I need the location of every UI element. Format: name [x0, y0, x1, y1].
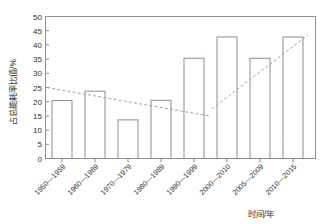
y-tick-label: 25	[33, 84, 42, 93]
y-axis-title: 占总能耗率比值/%	[8, 59, 18, 125]
x-axis-tick-labels: 1950—1959 1960—1969 1970—1979 1980—1989 …	[33, 162, 299, 197]
bar-1980-1989[interactable]	[151, 100, 171, 158]
x-axis-title: 时间/年	[248, 209, 274, 219]
x-tick-label: 1960—1969	[66, 162, 101, 197]
y-tick-label: 35	[33, 55, 42, 64]
y-tick-label: 45	[33, 27, 42, 36]
x-tick-label: 1950—1959	[33, 162, 68, 197]
y-tick-label: 30	[33, 69, 42, 78]
y-axis-tick-labels: 50 45 40 35 30 25 20 15 10 5 0	[33, 13, 42, 164]
x-tick-label: 1980—1989	[132, 162, 167, 197]
y-tick-label: 15	[33, 112, 42, 121]
y-tick-label: 0	[38, 155, 43, 164]
bar-1960-1969[interactable]	[85, 91, 105, 158]
bar-chart-svg: 占总能耗率比值/% 50 45 40 35 30 25 20 15 10 5 0	[0, 0, 326, 224]
x-tick-label: 1990—1999	[165, 162, 200, 197]
bar-1970-1979[interactable]	[118, 120, 138, 159]
y-tick-label: 20	[33, 98, 42, 107]
x-tick-label: 2005—2009	[231, 162, 266, 197]
bar-1990-1999[interactable]	[184, 58, 204, 158]
bar-2010-2015[interactable]	[283, 37, 303, 159]
x-tick-label: 2000—2010	[198, 162, 233, 197]
x-tick-label: 2010—2015	[264, 162, 299, 197]
chart-figure: 占总能耗率比值/% 50 45 40 35 30 25 20 15 10 5 0	[0, 0, 326, 224]
bar-2000-2010[interactable]	[217, 37, 237, 159]
y-tick-label: 10	[33, 126, 42, 135]
bar-series	[52, 37, 303, 159]
y-tick-label: 40	[33, 41, 42, 50]
y-tick-label: 5	[38, 140, 43, 149]
x-tick-label: 1970—1979	[99, 162, 134, 197]
bar-1950-1959[interactable]	[52, 101, 72, 159]
y-tick-label: 50	[33, 13, 42, 22]
bar-2005-2009[interactable]	[250, 58, 270, 158]
